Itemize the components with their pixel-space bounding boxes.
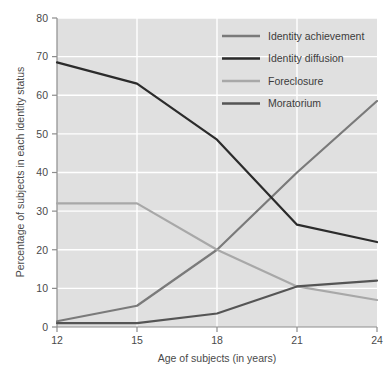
legend-item-label: Moratorium	[268, 97, 321, 109]
x-tick-label: 21	[291, 334, 303, 346]
y-tick-label: 70	[36, 50, 48, 62]
x-axis-title: Age of subjects (in years)	[158, 352, 276, 364]
y-tick-label: 80	[36, 12, 48, 24]
legend-item-label: Identity achievement	[268, 30, 364, 42]
chart-canvas: 01020304050607080 1215182124 Identity ac…	[0, 0, 392, 376]
y-tick-label: 10	[36, 282, 48, 294]
x-tick-label: 24	[371, 334, 383, 346]
x-tick-label: 18	[211, 334, 223, 346]
y-tick-label: 30	[36, 205, 48, 217]
y-tick-label: 40	[36, 166, 48, 178]
y-axis-title: Percentage of subjects in each identity …	[14, 67, 26, 278]
legend-item-label: Identity diffusion	[268, 52, 344, 64]
line-chart: 01020304050607080 1215182124 Identity ac…	[0, 0, 392, 376]
x-tick-label: 15	[131, 334, 143, 346]
y-tick-label: 0	[42, 321, 48, 333]
x-tick-label: 12	[51, 334, 63, 346]
y-tick-label: 20	[36, 244, 48, 256]
y-tick-label: 50	[36, 128, 48, 140]
legend-item-label: Foreclosure	[268, 75, 324, 87]
y-tick-label: 60	[36, 89, 48, 101]
